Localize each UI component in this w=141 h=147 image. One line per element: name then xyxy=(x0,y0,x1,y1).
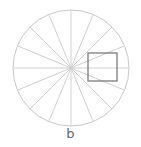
radial-lines xyxy=(13,10,129,126)
diagram-label: b xyxy=(0,126,141,141)
wheel-diagram xyxy=(0,0,141,147)
